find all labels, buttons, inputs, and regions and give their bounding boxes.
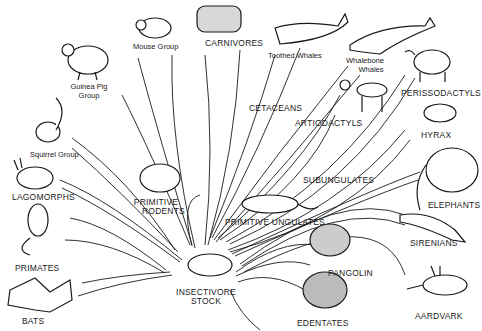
label-mouse-group: Mouse Group [133,42,178,51]
aardvark-illustration [407,266,467,295]
label-guinea-pig-line2: Group [66,91,112,100]
label-squirrel-group: Squirrel Group [30,150,79,159]
label-lagomorphs: LAGOMORPHS [12,192,75,202]
guinea-pig-illustration [62,44,108,80]
label-elephants: ELEPHANTS [428,200,480,210]
label-guinea-pig-line1: Guinea Pig [66,82,112,91]
label-edentates: EDENTATES [297,318,349,328]
label-insectivore-line2: STOCK [175,297,237,306]
squirrel-illustration [36,98,62,142]
label-primitive-ungulates: PRIMITIVE UNGULATES [225,217,325,227]
insectivore-illustration [188,254,232,276]
label-whalebone-whales: Whalebone Whales [340,56,390,74]
pangolin-illustration [310,224,350,256]
primitive-rodent-illustration [140,164,180,192]
tapir-illustration [405,50,450,82]
label-sirenians: SIRENIANS [410,238,458,248]
bat-illustration [8,278,72,312]
label-perissodactyls: PERISSODACTYLS [401,88,481,98]
label-carnivores: CARNIVORES [205,38,263,48]
label-cetaceans: CETACEANS [249,103,302,113]
rabbit-illustration [14,158,53,189]
whalebone-whale-illustration [350,18,435,54]
label-pangolin: PANGOLIN [328,268,373,278]
animal-silhouettes [8,6,478,312]
label-subungulates: SUBUNGULATES [303,175,374,185]
label-artiodactyls: ARTIODACTYLS [295,118,362,128]
label-whalebone-line2: Whales [340,65,390,74]
label-whalebone-line1: Whalebone [340,56,390,65]
carnivore-illustration [197,6,241,32]
label-bats: BATS [22,316,44,326]
label-hyrax: HYRAX [421,130,451,140]
label-insectivore-stock: INSECTIVORE STOCK [175,288,237,306]
deer-illustration [340,80,387,112]
primitive-ungulate-illustration [242,195,318,213]
label-guinea-pig-group: Guinea Pig Group [66,82,112,100]
label-toothed-whales: Toothed Whales [268,51,322,60]
mouse-illustration [136,18,171,38]
label-primitive-rodents: PRIMITIVE RODENTS [130,198,182,216]
label-aardvark: AARDVARK [415,311,463,321]
primate-illustration [22,204,48,255]
phylogeny-diagram [0,0,482,331]
hyrax-illustration [424,104,456,122]
label-primates: PRIMATES [15,263,59,273]
label-primitive-rodents-line2: RODENTS [130,207,182,216]
toothed-whale-illustration [275,14,348,44]
